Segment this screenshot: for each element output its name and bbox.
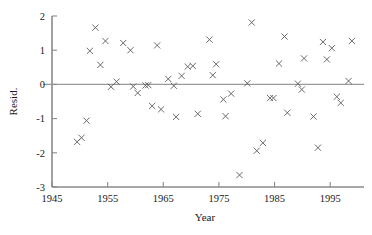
axis-tick-labels-group: 194519551965197519851995-3-2-1012: [36, 11, 340, 204]
residual-scatter-figure: 194519551965197519851995-3-2-1012 YearRe…: [0, 0, 372, 235]
data-point-marker: [149, 103, 155, 109]
axis-ticks-group: [52, 16, 330, 187]
x-axis-tick-label: 1965: [153, 193, 174, 204]
y-axis-tick-label: -2: [36, 148, 45, 159]
data-point-marker: [213, 61, 219, 67]
data-point-marker: [179, 73, 185, 79]
data-point-marker: [87, 48, 93, 54]
data-point-marker: [244, 80, 250, 86]
y-axis-tick-label: -3: [36, 182, 45, 193]
data-point-marker: [315, 145, 321, 151]
data-point-marker: [97, 62, 103, 68]
scatter-chart-svg: 194519551965197519851995-3-2-1012 YearRe…: [0, 0, 372, 235]
data-point-marker: [220, 96, 226, 102]
plot-area: 194519551965197519851995-3-2-1012 YearRe…: [0, 0, 372, 235]
data-point-marker: [127, 47, 133, 53]
x-axis-tick-label: 1955: [97, 193, 118, 204]
data-point-marker: [270, 95, 276, 101]
data-point-marker: [190, 63, 196, 69]
y-axis-tick-label: -1: [36, 113, 45, 124]
data-point-marker: [236, 172, 242, 178]
data-point-marker: [329, 45, 335, 51]
data-point-marker: [222, 113, 228, 119]
data-point-marker: [83, 118, 89, 124]
x-axis-tick-label: 1975: [208, 193, 229, 204]
data-point-marker: [135, 90, 141, 96]
data-point-marker: [349, 38, 355, 44]
data-point-marker: [299, 86, 305, 92]
data-point-marker: [276, 60, 282, 66]
x-axis-tick-label: 1995: [320, 193, 341, 204]
data-point-marker: [158, 106, 164, 112]
data-point-marker: [334, 94, 340, 100]
data-point-marker: [320, 39, 326, 45]
y-axis-tick-label: 2: [40, 11, 45, 22]
data-point-marker: [254, 148, 260, 154]
y-axis-tick-label: 1: [40, 45, 45, 56]
data-point-marker: [324, 56, 330, 62]
x-axis-title: Year: [195, 211, 216, 223]
data-point-marker: [102, 38, 108, 44]
data-point-marker: [310, 113, 316, 119]
y-axis-title: Resid.: [7, 87, 19, 115]
data-point-marker: [338, 100, 344, 106]
x-axis-tick-label: 1945: [42, 193, 63, 204]
data-point-marker: [228, 91, 234, 97]
data-points-group: [74, 19, 355, 178]
data-point-marker: [154, 42, 160, 48]
data-point-marker: [345, 78, 351, 84]
data-point-marker: [267, 95, 273, 101]
data-point-marker: [301, 55, 307, 61]
data-point-marker: [92, 25, 98, 31]
data-point-marker: [210, 72, 216, 78]
data-point-marker: [206, 36, 212, 42]
data-point-marker: [249, 19, 255, 25]
x-axis-tick-label: 1985: [264, 193, 285, 204]
data-point-marker: [173, 114, 179, 120]
data-point-marker: [78, 135, 84, 141]
data-point-marker: [120, 40, 126, 46]
data-point-marker: [165, 76, 171, 82]
data-point-marker: [260, 140, 266, 146]
data-point-marker: [195, 111, 201, 117]
data-point-marker: [284, 110, 290, 116]
data-point-marker: [281, 33, 287, 39]
data-point-marker: [171, 83, 177, 89]
y-axis-tick-label: 0: [40, 79, 45, 90]
